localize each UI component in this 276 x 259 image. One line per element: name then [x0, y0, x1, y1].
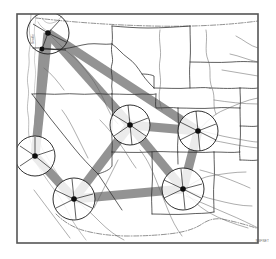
node-albuquerque[interactable] — [162, 168, 204, 210]
city-label-seattle: Seattle — [31, 34, 35, 44]
node-salt-lake-city[interactable] — [110, 105, 150, 145]
node-dot-denver — [195, 128, 201, 134]
map-caption: NSFNET — [256, 239, 269, 243]
node-los-angeles[interactable] — [53, 178, 95, 220]
network-map-figure: Seattle NSFNET — [0, 0, 276, 259]
node-denver[interactable] — [178, 111, 218, 151]
map-content: Seattle — [15, 12, 258, 243]
node-san-francisco[interactable] — [15, 136, 55, 176]
node-dot-albuquerque — [180, 186, 186, 192]
map-canvas: Seattle — [0, 0, 276, 259]
node-dot-salt-lake-city — [127, 122, 133, 128]
node-dot-san-francisco — [32, 153, 38, 159]
node-dot-los-angeles — [71, 196, 77, 202]
